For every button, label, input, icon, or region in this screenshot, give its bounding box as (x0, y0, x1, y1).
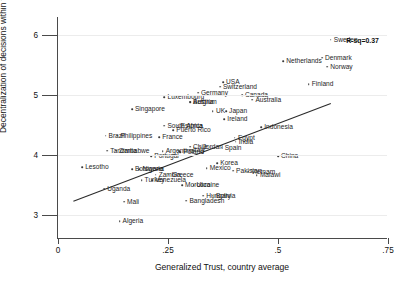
x-tick-label: .75 (382, 246, 393, 255)
data-point (105, 135, 107, 137)
y-tick-mark (42, 95, 58, 96)
data-point (252, 99, 254, 101)
data-point (131, 109, 133, 111)
data-point (282, 61, 284, 63)
data-point-label: Jordan (203, 143, 223, 150)
data-point (247, 171, 249, 173)
y-tick-mark (42, 35, 58, 36)
data-point-label: Malawi (260, 172, 281, 179)
data-point (81, 166, 83, 168)
data-point-label: Mali (127, 199, 139, 206)
data-point (260, 127, 262, 129)
data-point (206, 167, 208, 169)
x-tick-mark (388, 238, 389, 244)
gridline (58, 35, 387, 36)
y-tick-label: 4 (33, 151, 38, 160)
data-point (164, 125, 166, 127)
data-point-label: UK (216, 108, 225, 115)
y-axis-title-wrapper: Decentralization of decisions within fir… (8, 17, 24, 239)
x-tick-mark (58, 238, 59, 244)
r-squared-annotation: R-sq=0.37 (346, 36, 379, 43)
gridline (58, 95, 387, 96)
y-tick-mark (42, 215, 58, 216)
data-point (221, 147, 223, 149)
data-point (232, 170, 234, 172)
data-point (180, 151, 182, 153)
data-point-label: France (162, 134, 183, 141)
data-point-label: Ireland (227, 116, 247, 123)
data-point (256, 175, 258, 177)
data-point (193, 184, 195, 186)
x-tick-mark (168, 238, 169, 244)
data-point (181, 184, 183, 186)
data-point-label: Zimbabwe (119, 148, 149, 155)
plot-inner: SwedenDenmarkNetherlandsNorwayFinlandUSA… (58, 17, 387, 238)
gridline (58, 215, 387, 216)
data-point-label: Venezuela (155, 177, 186, 184)
scatter-plot-figure: Decentralization of decisions within fir… (0, 0, 404, 291)
data-point-label: Japan (229, 108, 247, 115)
data-point (224, 118, 226, 120)
data-point-label: Finland (312, 81, 334, 88)
regression-fit-line (58, 17, 387, 238)
data-point-label: Uganda (107, 185, 130, 192)
data-point-label: Norway (330, 64, 352, 71)
data-point-label: Spain (225, 145, 242, 152)
data-point (186, 200, 188, 202)
data-point-label: Denmark (325, 55, 352, 62)
data-point (151, 179, 153, 181)
x-tick-mark (278, 238, 279, 244)
x-axis-title: Generalized Trust, country average (57, 262, 387, 272)
data-point-label: Algeria (123, 218, 144, 225)
x-tick-label: .25 (162, 246, 173, 255)
data-point (158, 136, 160, 138)
data-point-label: Bangladesh (189, 197, 224, 204)
data-point (131, 169, 133, 171)
data-point (189, 101, 191, 103)
data-point (326, 66, 328, 68)
data-point (212, 110, 214, 112)
plot-area: SwedenDenmarkNetherlandsNorwayFinlandUSA… (57, 17, 387, 239)
x-tick-label: 0 (56, 246, 61, 255)
data-point (141, 179, 143, 181)
data-point (172, 130, 174, 132)
y-tick-label: 3 (33, 211, 38, 220)
data-point-label: Netherlands (286, 58, 322, 65)
data-point-label: Australia (255, 97, 281, 104)
data-point (103, 188, 105, 190)
data-point-label: China (281, 153, 298, 160)
x-tick-label: .5 (275, 246, 282, 255)
y-tick-mark (42, 155, 58, 156)
data-point (117, 135, 119, 137)
data-point (216, 163, 218, 165)
data-point (164, 97, 166, 99)
data-point (235, 141, 237, 143)
data-point (219, 86, 221, 88)
data-point (106, 150, 108, 152)
data-point-label: Singapore (135, 106, 165, 113)
data-point-label: Lesotho (85, 164, 108, 171)
data-point-label: Ukraine (197, 182, 220, 189)
data-point (139, 169, 141, 171)
data-point (115, 150, 117, 152)
y-tick-label: 6 (33, 31, 38, 40)
data-point (234, 137, 236, 139)
data-point (123, 201, 125, 203)
data-point (225, 110, 227, 112)
data-point-label: Austria (193, 99, 214, 106)
data-point (308, 83, 310, 85)
y-tick-label: 5 (33, 91, 38, 100)
data-point (119, 220, 121, 222)
y-axis-title: Decentralization of decisions within fir… (0, 0, 8, 133)
data-point (330, 39, 332, 41)
gridline (58, 155, 387, 156)
data-point-label: Indonesia (264, 124, 293, 131)
data-point-label: Portugal (154, 153, 179, 160)
data-point-label: Philippines (120, 133, 152, 140)
